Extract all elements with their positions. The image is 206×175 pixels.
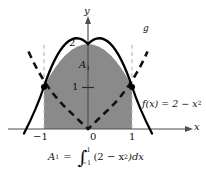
curve-g-label: g	[143, 24, 149, 33]
integral-lower-limit: −1	[82, 160, 92, 167]
region-label-subscript: 1	[86, 64, 90, 71]
x-axis-label: x	[194, 122, 200, 132]
formula-lhs-base: A	[48, 152, 55, 162]
formula-lhs-subscript: 1	[55, 154, 59, 160]
x-tick-label-minus-1: −1	[33, 132, 48, 142]
curve-f-label-exponent: 2	[198, 100, 202, 106]
x-axis-arrow-icon	[185, 126, 193, 132]
y-axis-arrow-icon	[85, 16, 91, 24]
integral-upper-limit: 1	[87, 147, 91, 154]
origin-label: 0	[90, 132, 96, 142]
integral-symbol-group: ∫ 1 −1	[78, 149, 88, 165]
y-tick-label-1: 1	[72, 82, 78, 92]
y-axis-label: y	[84, 6, 90, 16]
intersection-point-left	[41, 84, 47, 90]
intersection-point-right	[129, 84, 135, 90]
formula-equals: =	[63, 152, 71, 162]
y-tick-label-2: 2	[69, 38, 75, 48]
x-tick-label-1: 1	[129, 132, 135, 142]
formula-integrand-open: (2 − x	[93, 152, 124, 162]
integral-formula: A1 = ∫ 1 −1 (2 − x2)dx	[48, 149, 144, 165]
formula-integrand-close: )dx	[128, 152, 144, 162]
curve-f-label-text: f(x) = 2 − x	[142, 98, 198, 109]
curve-f-label: f(x) = 2 − x2	[142, 99, 201, 109]
region-label-A1: A1	[79, 60, 90, 71]
